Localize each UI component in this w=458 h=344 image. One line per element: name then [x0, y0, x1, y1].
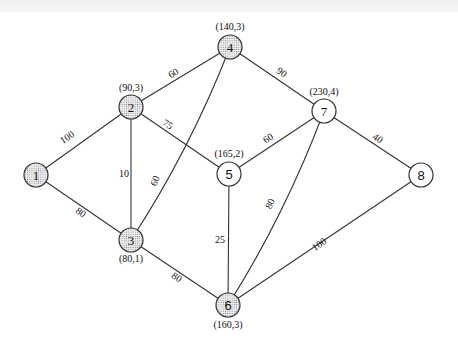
- node-4-coord: (140,3): [215, 21, 244, 33]
- weight-6-8: 100: [310, 235, 329, 253]
- node-6: 6 (160,3): [213, 293, 242, 331]
- weight-6-7: 80: [263, 197, 277, 211]
- weight-2-3: 10: [119, 168, 129, 179]
- node-7: 7 (230,4): [309, 86, 338, 123]
- weight-1-3: 80: [74, 205, 89, 220]
- weight-5-7: 60: [261, 131, 275, 146]
- node-1-label: 1: [33, 168, 40, 183]
- node-4-label: 4: [227, 40, 234, 55]
- node-8-label: 8: [417, 168, 424, 183]
- node-4: 4 (140,3): [215, 21, 244, 59]
- node-5-coord: (165,2): [214, 148, 243, 160]
- node-6-label: 6: [224, 298, 231, 313]
- weight-3-4: 60: [148, 174, 162, 187]
- node-2-coord: (90,3): [119, 82, 143, 94]
- node-8: 8: [409, 163, 433, 187]
- node-3: 3 (80,1): [119, 228, 143, 265]
- edge-2-5: [131, 107, 229, 174]
- node-2-label: 2: [128, 100, 135, 115]
- node-3-label: 3: [128, 233, 135, 248]
- edge-1-2: [36, 107, 131, 175]
- weight-3-6: 80: [170, 270, 184, 285]
- edge-4-7: [230, 47, 324, 111]
- edge-6-7: [228, 111, 324, 305]
- weight-1-2: 100: [58, 128, 77, 146]
- edge-3-4: [131, 47, 230, 240]
- node-5-label: 5: [225, 167, 232, 182]
- edge-7-8: [324, 111, 421, 175]
- node-2: 2 (90,3): [119, 82, 143, 119]
- graph-canvas: 100 80 10 60 75 60 80 90 60 25 80 100 40…: [0, 0, 458, 344]
- weight-5-6: 25: [215, 234, 225, 245]
- node-7-label: 7: [321, 104, 328, 119]
- node-7-coord: (230,4): [309, 86, 338, 98]
- node-5: 5 (165,2): [214, 148, 243, 186]
- graph-diagram: 100 80 10 60 75 60 80 90 60 25 80 100 40…: [0, 0, 458, 344]
- edge-5-6: [228, 174, 229, 305]
- node-6-coord: (160,3): [213, 319, 242, 331]
- edge-5-7: [229, 111, 324, 174]
- weight-4-7: 90: [275, 65, 289, 80]
- edge-2-4: [131, 47, 230, 107]
- node-1: 1: [24, 163, 48, 187]
- node-3-coord: (80,1): [119, 253, 143, 265]
